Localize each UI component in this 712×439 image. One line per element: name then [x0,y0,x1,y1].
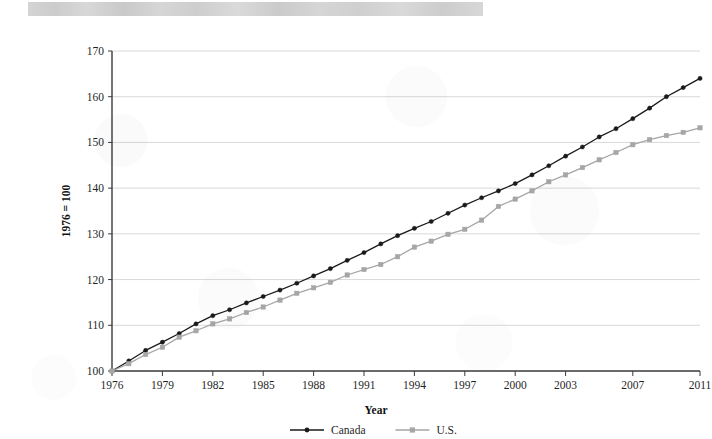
y-tick-label: 140 [87,182,105,194]
data-point-marker [379,262,383,266]
chart-svg: 100110120130140150160170 197619791982198… [40,16,712,439]
y-tick-label: 120 [87,274,105,286]
x-axis-group: 1976197919821985198819911994199720002003… [101,371,712,391]
data-point-marker [278,288,282,292]
data-point-marker [143,352,147,356]
data-point-marker [211,314,215,318]
y-tick-label: 170 [87,45,105,57]
legend-label: U.S. [436,424,457,436]
data-point-marker [698,76,702,80]
x-tick-label: 1991 [353,379,376,391]
legend-marker [410,427,415,432]
data-point-marker [312,274,316,278]
data-point-marker [698,126,702,130]
series-u-s [110,126,702,374]
data-point-marker [211,322,215,326]
series-line [112,128,700,371]
data-point-marker [446,211,450,215]
data-point-marker [631,117,635,121]
y-tick-label: 110 [87,319,104,331]
data-point-marker [597,158,601,162]
gridlines-group [112,51,700,325]
data-point-marker [328,267,332,271]
x-tick-label: 1976 [101,379,124,391]
x-tick-label: 1994 [403,379,426,391]
data-point-marker [144,348,148,352]
data-point-marker [463,203,467,207]
legend-group[interactable]: CanadaU.S. [290,424,457,436]
y-tick-label: 130 [87,228,105,240]
data-point-marker [614,150,618,154]
data-point-marker [681,130,685,134]
data-point-marker [345,258,349,262]
data-point-marker [664,133,668,137]
x-tick-label: 1988 [302,379,325,391]
data-point-marker [244,310,248,314]
x-tick-label: 1997 [453,379,476,391]
data-series-group [110,76,702,373]
data-point-marker [496,189,500,193]
data-point-marker [480,196,484,200]
x-tick-label: 1979 [151,379,174,391]
data-point-marker [429,219,433,223]
data-point-marker [278,298,282,302]
x-tick-label: 2011 [689,379,712,391]
line-chart-figure: 100110120130140150160170 197619791982198… [40,16,712,439]
data-point-marker [496,204,500,208]
data-point-marker [547,164,551,168]
data-point-marker [479,218,483,222]
y-axis-title: 1976 = 100 [60,184,72,237]
x-tick-label: 2000 [504,379,527,391]
x-tick-label: 2003 [554,379,577,391]
data-point-marker [513,181,517,185]
data-point-marker [362,267,366,271]
data-point-marker [395,255,399,259]
data-point-marker [547,180,551,184]
y-tick-label: 160 [87,91,105,103]
data-point-marker [160,340,164,344]
data-point-marker [664,95,668,99]
series-line [112,78,700,371]
data-point-marker [446,232,450,236]
data-point-marker [244,301,248,305]
data-point-marker [647,137,651,141]
data-point-marker [362,251,366,255]
data-point-marker [177,335,181,339]
data-point-marker [194,322,198,326]
data-point-marker [396,234,400,238]
data-point-marker [580,145,584,149]
data-point-marker [412,226,416,230]
data-point-marker [160,345,164,349]
data-point-marker [580,165,584,169]
data-point-marker [429,239,433,243]
data-point-marker [110,369,114,373]
data-point-marker [295,291,299,295]
legend-item-u-s[interactable]: U.S. [395,424,457,436]
data-point-marker [563,173,567,177]
data-point-marker [194,329,198,333]
data-point-marker [261,305,265,309]
legend-marker [305,428,310,433]
data-point-marker [379,242,383,246]
data-point-marker [513,197,517,201]
data-point-marker [227,317,231,321]
data-point-marker [311,286,315,290]
data-point-marker [631,143,635,147]
data-point-marker [530,173,534,177]
x-tick-label: 1985 [252,379,275,391]
series-canada [110,76,702,373]
data-point-marker [614,127,618,131]
y-tick-label: 100 [87,365,105,377]
legend-item-canada[interactable]: Canada [290,424,365,436]
data-point-marker [648,106,652,110]
data-point-marker [228,308,232,312]
x-axis-title: Year [365,404,388,416]
data-point-marker [597,135,601,139]
data-point-marker [345,273,349,277]
data-point-marker [328,280,332,284]
data-point-marker [127,361,131,365]
y-axis-group: 100110120130140150160170 [87,45,112,377]
data-point-marker [261,294,265,298]
data-point-marker [681,85,685,89]
y-tick-label: 150 [87,136,105,148]
